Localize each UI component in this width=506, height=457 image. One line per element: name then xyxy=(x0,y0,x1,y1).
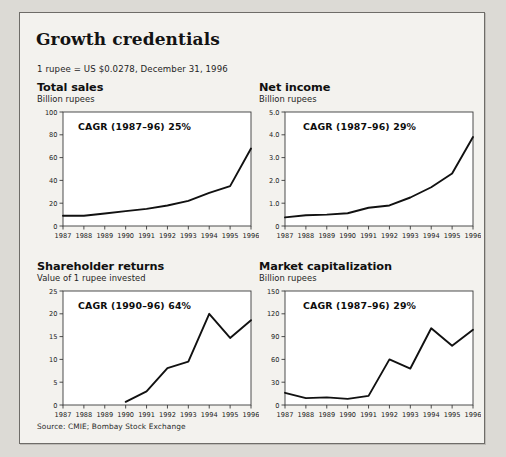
x-tick-label: 1993 xyxy=(402,411,419,419)
chart-market-capitalization: 0306090120150198719881989199019911992199… xyxy=(259,285,481,431)
x-tick-label: 1991 xyxy=(360,232,377,240)
x-tick-label: 1988 xyxy=(75,232,92,240)
panel-subtitle: Billion rupees xyxy=(259,273,481,283)
y-tick-label: 5.0 xyxy=(269,109,280,117)
panel-net-income: Net income Billion rupees 01.02.03.04.05… xyxy=(259,82,481,252)
y-tick-label: 20 xyxy=(49,310,57,318)
x-tick-label: 1994 xyxy=(201,411,218,419)
y-tick-label: 3.0 xyxy=(269,154,280,162)
y-tick-label: 20 xyxy=(49,200,57,208)
y-tick-label: 0 xyxy=(275,223,279,231)
x-tick-label: 1989 xyxy=(96,411,113,419)
y-tick-label: 5 xyxy=(53,379,57,387)
x-tick-label: 1996 xyxy=(243,411,259,419)
x-tick-label: 1987 xyxy=(277,411,294,419)
x-tick-label: 1992 xyxy=(159,232,176,240)
x-tick-label: 1990 xyxy=(339,232,356,240)
y-tick-label: 80 xyxy=(49,131,57,139)
page-title: Growth credentials xyxy=(36,29,220,49)
panel-subtitle: Billion rupees xyxy=(37,94,259,104)
panel-market-capitalization: Market capitalization Billion rupees 030… xyxy=(259,261,481,431)
chart-net-income: 01.02.03.04.05.0198719881989199019911992… xyxy=(259,106,481,252)
x-tick-label: 1992 xyxy=(381,232,398,240)
x-tick-label: 1993 xyxy=(402,232,419,240)
panel-total-sales: Total sales Billion rupees 0204060801001… xyxy=(37,82,259,252)
x-tick-label: 1992 xyxy=(159,411,176,419)
panel-title: Market capitalization xyxy=(259,261,481,273)
panel-title: Net income xyxy=(259,82,481,94)
x-tick-label: 1990 xyxy=(117,411,134,419)
chart-annotation-cagr: CAGR (1987–96) 25% xyxy=(78,121,191,132)
chart-annotation-cagr: CAGR (1987–96) 29% xyxy=(303,121,416,132)
y-tick-label: 1.0 xyxy=(269,200,280,208)
x-tick-label: 1988 xyxy=(297,232,314,240)
y-tick-label: 25 xyxy=(49,288,57,296)
x-tick-label: 1991 xyxy=(360,411,377,419)
y-tick-label: 150 xyxy=(267,288,280,296)
source-note: Source: CMIE; Bombay Stock Exchange xyxy=(37,422,186,431)
chart-annotation-cagr: CAGR (1990–96) 64% xyxy=(78,300,191,311)
x-tick-label: 1993 xyxy=(180,232,197,240)
x-tick-label: 1994 xyxy=(423,232,440,240)
x-tick-label: 1996 xyxy=(465,411,481,419)
x-tick-label: 1993 xyxy=(180,411,197,419)
x-tick-label: 1988 xyxy=(75,411,92,419)
x-tick-label: 1995 xyxy=(444,232,461,240)
x-tick-label: 1989 xyxy=(318,232,335,240)
panel-title: Total sales xyxy=(37,82,259,94)
x-tick-label: 1994 xyxy=(201,232,218,240)
y-tick-label: 0 xyxy=(53,223,57,231)
y-tick-label: 90 xyxy=(271,333,279,341)
panel-shareholder-returns: Shareholder returns Value of 1 rupee inv… xyxy=(37,261,259,431)
x-tick-label: 1995 xyxy=(222,411,239,419)
y-tick-label: 30 xyxy=(271,379,279,387)
x-tick-label: 1992 xyxy=(381,411,398,419)
x-tick-label: 1996 xyxy=(243,232,259,240)
y-tick-label: 10 xyxy=(49,356,57,364)
x-tick-label: 1988 xyxy=(297,411,314,419)
x-tick-label: 1987 xyxy=(55,411,72,419)
x-tick-label: 1994 xyxy=(423,411,440,419)
x-tick-label: 1987 xyxy=(55,232,72,240)
x-tick-label: 1990 xyxy=(339,411,356,419)
figure-card: Growth credentials 1 rupee = US $0.0278,… xyxy=(19,12,485,444)
panel-subtitle: Billion rupees xyxy=(259,94,481,104)
x-tick-label: 1996 xyxy=(465,232,481,240)
chart-annotation-cagr: CAGR (1987–96) 29% xyxy=(303,300,416,311)
y-tick-label: 0 xyxy=(53,402,57,410)
x-tick-label: 1991 xyxy=(138,232,155,240)
x-tick-label: 1989 xyxy=(318,411,335,419)
x-tick-label: 1995 xyxy=(222,232,239,240)
x-tick-label: 1989 xyxy=(96,232,113,240)
y-tick-label: 100 xyxy=(45,109,58,117)
y-tick-label: 15 xyxy=(49,333,57,341)
panel-subtitle: Value of 1 rupee invested xyxy=(37,273,259,283)
x-tick-label: 1990 xyxy=(117,232,134,240)
currency-note: 1 rupee = US $0.0278, December 31, 1996 xyxy=(37,64,228,74)
x-tick-label: 1991 xyxy=(138,411,155,419)
y-tick-label: 2.0 xyxy=(269,177,280,185)
x-tick-label: 1987 xyxy=(277,232,294,240)
y-tick-label: 4.0 xyxy=(269,131,280,139)
y-tick-label: 60 xyxy=(271,356,279,364)
x-tick-label: 1995 xyxy=(444,411,461,419)
y-tick-label: 40 xyxy=(49,177,57,185)
chart-total-sales: 0204060801001987198819891990199119921993… xyxy=(37,106,259,252)
chart-shareholder-returns: 0510152025198719881989199019911992199319… xyxy=(37,285,259,431)
panel-title: Shareholder returns xyxy=(37,261,259,273)
y-tick-label: 120 xyxy=(267,310,280,318)
y-tick-label: 60 xyxy=(49,154,57,162)
y-tick-label: 0 xyxy=(275,402,279,410)
